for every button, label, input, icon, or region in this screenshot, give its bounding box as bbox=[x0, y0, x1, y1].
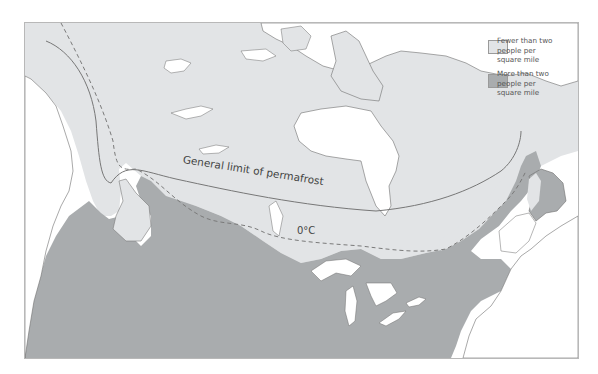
map-frame bbox=[24, 22, 579, 359]
isotherm-label: 0°C bbox=[297, 225, 315, 236]
legend-label-sparse: Fewer than two people per square mile bbox=[497, 36, 552, 65]
legend-label-dense: More than two people per square mile bbox=[497, 69, 549, 98]
